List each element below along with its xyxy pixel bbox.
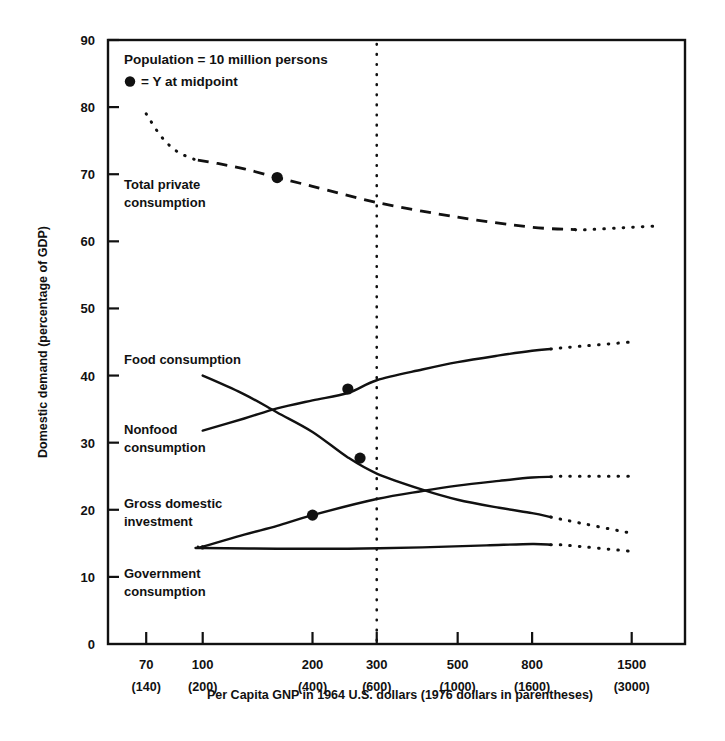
label-total-private-consumption-line1: Total private [124,177,200,192]
y-tick-label-80: 80 [81,100,95,115]
midpoint-markers [272,172,366,521]
y-axis-ticks [108,40,119,577]
curve-labels: Total private consumption Food consumpti… [124,177,241,599]
label-government-consumption-line2: consumption [124,584,206,599]
economic-demand-line-chart: 0102030405060708090 70100200300500800150… [0,0,725,741]
x-tick-label-70: 70 [139,657,153,672]
series-government-consumption [196,544,632,551]
label-government-consumption-line1: Government [124,566,201,581]
series-government-consumption-main [196,544,551,549]
series-total-private-consumption [146,114,660,230]
y-tick-label-50: 50 [81,301,95,316]
series-total-private-consumption-lead-dotted [146,114,198,160]
y-tick-label-0: 0 [88,637,95,652]
legend-midpoint-dot [125,76,135,86]
x-axis-title: Per Capita GNP in 1964 U.S. dollars (197… [207,688,593,702]
label-gross-domestic-investment-line1: Gross domestic [124,496,222,511]
x-tick-label-500: 500 [447,657,469,672]
y-tick-label-30: 30 [81,436,95,451]
series-total-private-consumption-main [198,160,575,230]
label-nonfood-consumption-line1: Nonfood [124,422,177,437]
label-nonfood-consumption-line2: consumption [124,440,206,455]
x-tick-label-secondary-6: (3000) [614,680,650,694]
legend: Population = 10 million persons = Y at m… [124,52,328,89]
series-food-consumption [203,342,632,431]
x-axis-tick-labels: 701002003005008001500 [139,657,646,672]
y-tick-label-60: 60 [81,234,95,249]
label-total-private-consumption-line2: consumption [124,195,206,210]
label-food-consumption: Food consumption [124,352,241,367]
y-tick-label-40: 40 [81,369,95,384]
series-total-private-consumption-trail-dotted [575,226,660,230]
x-tick-label-1500: 1500 [617,657,646,672]
legend-midpoint-text: = Y at midpoint [141,74,238,89]
series-food-consumption-trail-dotted [551,342,632,349]
x-tick-label-200: 200 [302,657,324,672]
y-tick-label-20: 20 [81,503,95,518]
midpoint-dot-total-private-consumption [272,172,283,183]
series-curves [146,114,660,552]
x-tick-label-300: 300 [366,657,388,672]
series-gross-domestic-investment-trail-dotted [551,476,632,477]
midpoint-dot-gross-domestic-investment [307,510,318,521]
plot-frame [108,40,685,644]
chart-figure: 0102030405060708090 70100200300500800150… [0,0,725,741]
series-gross-domestic-investment-main [198,477,551,548]
midpoint-dot-food-consumption [342,383,353,394]
x-tick-label-800: 800 [521,657,543,672]
midpoint-dot-nonfood-consumption [354,453,365,464]
series-government-consumption-trail-dotted [551,545,632,552]
series-nonfood-consumption [203,376,632,534]
x-axis-ticks [146,632,631,644]
x-tick-label-secondary-0: (140) [132,680,161,694]
y-tick-label-10: 10 [81,570,95,585]
y-axis-tick-labels: 0102030405060708090 [81,33,95,652]
y-tick-label-90: 90 [81,33,95,48]
legend-population-text: Population = 10 million persons [124,52,328,67]
label-gross-domestic-investment-line2: investment [124,514,193,529]
y-axis-title: Domestic demand (percentage of GDP) [36,226,50,458]
x-tick-label-100: 100 [192,657,214,672]
y-tick-label-70: 70 [81,167,95,182]
series-nonfood-consumption-trail-dotted [551,517,632,533]
